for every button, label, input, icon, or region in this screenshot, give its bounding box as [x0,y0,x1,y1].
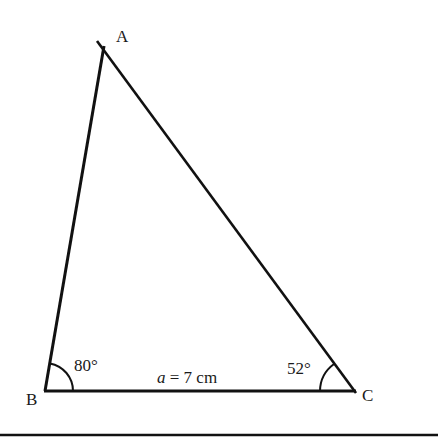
angle-label-c: 52° [287,359,311,378]
triangle-diagram: A B C 80° 52° a = 7 cm [0,0,438,438]
side-value-a: = 7 cm [166,368,218,387]
angle-label-b: 80° [74,356,98,375]
angle-arc-b [50,363,73,391]
diagram-canvas: A B C 80° 52° a = 7 cm [0,0,438,438]
vertex-label-c: C [362,386,373,405]
side-ab [45,46,104,391]
angle-arc-c [320,364,334,391]
vertex-label-b: B [26,390,37,409]
side-var-a: a [157,368,166,387]
vertex-label-a: A [116,27,129,46]
side-ac [97,41,356,393]
side-label-a: a = 7 cm [157,368,217,387]
